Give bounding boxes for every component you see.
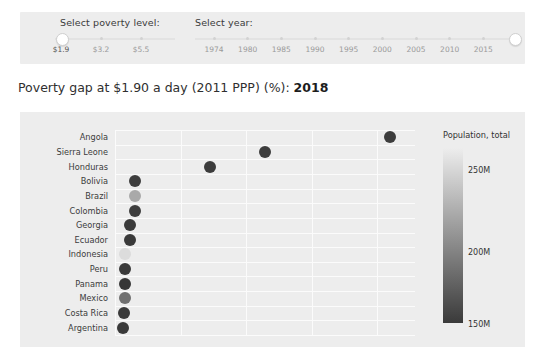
legend: Population, total 250M200M150M [430,130,525,340]
data-point[interactable] [117,322,129,334]
poverty-tick-label: $5.5 [133,45,150,54]
year-tick-label: 1995 [339,45,358,54]
data-point[interactable] [384,131,396,143]
chart-panel: AngolaSierra LeoneHondurasBoliviaBrazilC… [20,112,525,347]
year-tick-dot[interactable] [213,37,216,40]
year-tick-label: 2000 [373,45,392,54]
data-point[interactable] [124,234,136,246]
data-point[interactable] [129,175,141,187]
poverty-slider-handle[interactable] [56,33,69,46]
legend-tick-label: 150M [468,320,490,329]
year-slider[interactable] [195,38,520,40]
data-point[interactable] [129,205,141,217]
year-tick-label: 1990 [305,45,324,54]
vertical-gridline [246,130,247,335]
category-label: Panama [75,279,108,289]
data-point[interactable] [259,146,271,158]
category-label: Indonesia [68,249,108,259]
data-point[interactable] [129,190,141,202]
legend-tick-label: 200M [468,248,490,257]
poverty-level-slider[interactable] [55,38,175,40]
category-label: Colombia [70,206,108,216]
page-title: Poverty gap at $1.90 a day (2011 PPP) (%… [18,80,328,95]
horizontal-gridline [115,320,415,321]
poverty-tick-dot[interactable] [100,37,103,40]
category-label: Angola [80,132,108,142]
data-point[interactable] [124,219,136,231]
category-label: Honduras [69,162,108,172]
year-tick-dot[interactable] [482,37,485,40]
year-tick-label: 2010 [440,45,459,54]
horizontal-gridline [115,262,415,263]
horizontal-gridline [115,174,415,175]
data-point[interactable] [118,307,130,319]
vertical-gridline [181,130,182,335]
category-label: Argentina [68,323,108,333]
year-tick-dot[interactable] [314,37,317,40]
horizontal-gridline [115,189,415,190]
year-label: Select year: [195,17,253,28]
plot-area [115,130,415,335]
category-label: Ecuador [75,235,108,245]
category-label: Mexico [79,293,108,303]
horizontal-gridline [115,233,415,234]
data-point[interactable] [119,263,131,275]
category-label: Georgia [76,220,108,230]
category-label: Costa Rica [65,308,108,318]
horizontal-gridline [115,247,415,248]
year-tick-label: 1985 [272,45,291,54]
legend-tick-label: 250M [468,166,490,175]
horizontal-gridline [115,306,415,307]
category-label: Bolivia [81,176,108,186]
category-label: Peru [90,264,108,274]
horizontal-gridline [115,130,415,131]
legend-title: Population, total [443,130,510,140]
data-point[interactable] [119,248,131,260]
vertical-gridline [312,130,313,335]
vertical-gridline [115,130,116,335]
poverty-level-label: Select poverty level: [60,17,160,28]
horizontal-gridline [115,335,415,336]
title-prefix: Poverty gap at $1.90 a day (2011 PPP) (%… [18,80,294,95]
control-panel: Select poverty level: Select year: $1.9$… [20,12,525,64]
horizontal-gridline [115,159,415,160]
horizontal-gridline [115,276,415,277]
horizontal-gridline [115,203,415,204]
poverty-tick-label: $1.9 [53,45,70,54]
year-tick-dot[interactable] [280,37,283,40]
category-label: Brazil [85,191,108,201]
horizontal-gridline [115,291,415,292]
year-tick-label: 2015 [474,45,493,54]
data-point[interactable] [204,161,216,173]
year-tick-dot[interactable] [381,37,384,40]
poverty-tick-label: $3.2 [93,45,110,54]
horizontal-gridline [115,218,415,219]
data-point[interactable] [119,292,131,304]
category-axis: AngolaSierra LeoneHondurasBoliviaBrazilC… [20,130,108,335]
legend-color-bar [443,148,463,323]
poverty-tick-dot[interactable] [140,37,143,40]
year-tick-label: 1974 [204,45,223,54]
vertical-gridline [377,130,378,335]
year-tick-label: 1980 [238,45,257,54]
title-year: 2018 [294,80,329,95]
year-tick-dot[interactable] [415,37,418,40]
year-slider-handle[interactable] [509,33,522,46]
data-point[interactable] [119,278,131,290]
year-tick-label: 2005 [406,45,425,54]
category-label: Sierra Leone [57,147,108,157]
